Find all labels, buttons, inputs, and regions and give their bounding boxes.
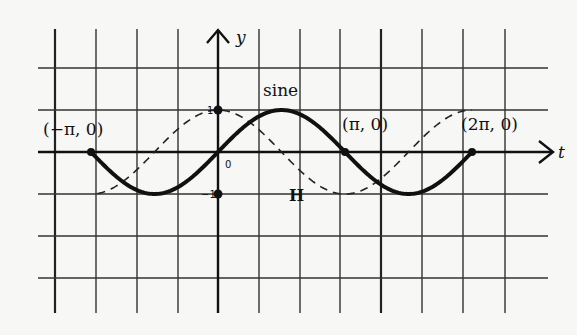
annotated-point bbox=[341, 148, 349, 156]
annotation-2pi: (2π, 0) bbox=[461, 114, 518, 134]
grid bbox=[38, 29, 548, 313]
sine-chart: y t sine H (−π, 0) (π, 0) (2π, 0) 1 −1 0 bbox=[0, 0, 577, 335]
y-tick-dot bbox=[214, 106, 223, 115]
y-tick-label-1: 1 bbox=[207, 105, 213, 116]
series-label-H: H bbox=[289, 186, 304, 205]
annotation-neg-pi: (−π, 0) bbox=[43, 119, 103, 139]
annotated-point bbox=[468, 148, 476, 156]
origin-label: 0 bbox=[225, 159, 231, 170]
t-axis-label: t bbox=[558, 142, 565, 162]
annotated-point bbox=[87, 148, 95, 156]
y-tick-label-neg1: −1 bbox=[201, 189, 216, 200]
axes bbox=[38, 30, 553, 313]
series-label-sine: sine bbox=[263, 80, 298, 100]
annotation-pi: (π, 0) bbox=[342, 114, 388, 134]
y-axis-label: y bbox=[235, 27, 246, 47]
